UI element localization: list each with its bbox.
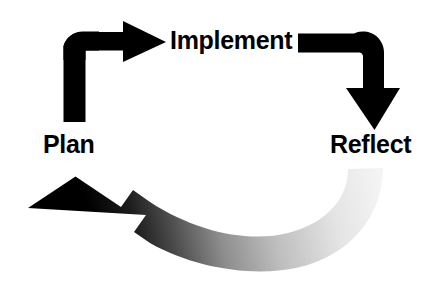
node-label-implement: Implement — [170, 26, 292, 54]
node-label-plan: Plan — [43, 130, 95, 158]
node-label-reflect: Reflect — [330, 130, 411, 158]
arrow-plan-to-implement — [64, 21, 167, 122]
cycle-diagram: Implement Reflect Plan — [0, 0, 433, 284]
arrow-implement-to-reflect — [298, 31, 400, 130]
arrow-reflect-to-plan — [28, 168, 383, 271]
